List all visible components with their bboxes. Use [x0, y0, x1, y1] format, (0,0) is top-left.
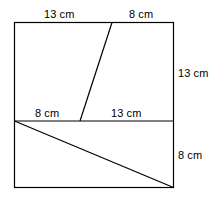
upper-diagonal-line: [80, 23, 112, 122]
dimension-label-middle-right: 13 cm: [111, 107, 141, 119]
dimension-label-right-lower: 8 cm: [178, 149, 202, 161]
figure-canvas: [0, 0, 223, 201]
dimension-label-right-upper: 13 cm: [178, 67, 208, 79]
dimension-label-middle-left: 8 cm: [35, 107, 59, 119]
outer-rectangle: [15, 23, 174, 188]
dimension-label-top-left: 13 cm: [44, 8, 74, 20]
geometry-figure: 13 cm 8 cm 13 cm 8 cm 8 cm 13 cm: [0, 0, 223, 201]
dimension-label-top-right: 8 cm: [129, 8, 153, 20]
lower-diagonal-line: [15, 121, 174, 188]
